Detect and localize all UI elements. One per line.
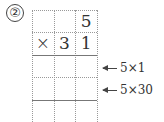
grid-cell[interactable] <box>75 100 97 122</box>
arrow-left-icon <box>103 68 117 69</box>
annotation-text: 5×30 <box>120 83 153 97</box>
grid-cell[interactable] <box>75 55 97 77</box>
grid-line <box>97 10 98 122</box>
grid-cell[interactable]: 5 <box>75 10 97 32</box>
grid-cell[interactable]: 3 <box>54 32 76 54</box>
grid-cell[interactable] <box>75 77 97 99</box>
grid-cell[interactable]: 1 <box>75 32 97 54</box>
problem-number-label: ② <box>6 4 24 22</box>
grid-cell[interactable] <box>54 100 76 122</box>
annotation-5x30: 5×30 <box>103 83 153 97</box>
annotation-5x1: 5×1 <box>103 61 145 75</box>
arrow-left-icon <box>103 90 117 91</box>
annotation-text: 5×1 <box>120 61 145 75</box>
grid-cell[interactable] <box>32 10 54 32</box>
grid-cell[interactable] <box>54 77 76 99</box>
multiply-sign: × <box>32 32 54 54</box>
grid-cell[interactable] <box>32 77 54 99</box>
grid-cell[interactable] <box>54 55 76 77</box>
multiplication-grid: 5 × 3 1 <box>32 10 97 122</box>
grid-cell[interactable] <box>54 10 76 32</box>
grid-cell[interactable] <box>32 55 54 77</box>
grid-cell[interactable] <box>32 100 54 122</box>
